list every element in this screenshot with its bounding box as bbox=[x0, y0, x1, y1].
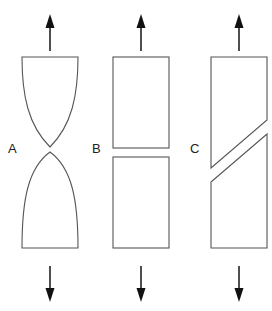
specimen-b-label: B bbox=[92, 141, 101, 156]
up-arrow-icon bbox=[137, 14, 146, 51]
specimen-b-upper-half bbox=[113, 57, 169, 148]
down-arrow-icon bbox=[137, 266, 146, 302]
specimen-a: A bbox=[8, 14, 78, 302]
specimen-b-lower-half bbox=[113, 157, 169, 248]
specimen-c-lower-half bbox=[211, 134, 267, 248]
specimen-a-lower-half bbox=[22, 152, 78, 248]
specimen-a-label: A bbox=[8, 141, 17, 156]
up-arrow-icon bbox=[235, 14, 244, 51]
tension-fracture-diagram: A B C bbox=[0, 0, 272, 311]
up-arrow-icon bbox=[46, 14, 55, 51]
down-arrow-icon bbox=[235, 266, 244, 302]
specimen-c: C bbox=[190, 14, 267, 302]
specimen-b: B bbox=[92, 14, 169, 302]
down-arrow-icon bbox=[46, 266, 55, 302]
specimen-c-label: C bbox=[190, 141, 199, 156]
specimen-c-upper-half bbox=[211, 57, 267, 168]
specimen-a-upper-half bbox=[22, 57, 78, 147]
